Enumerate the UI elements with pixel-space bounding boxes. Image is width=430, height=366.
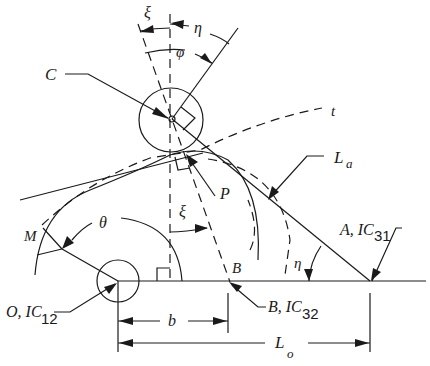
label-c: C xyxy=(45,65,57,84)
label-la-sub: a xyxy=(346,156,353,171)
label-xi-top: ξ xyxy=(144,4,151,21)
la-leader xyxy=(270,156,324,197)
label-o-ic-sub: 12 xyxy=(41,310,58,327)
xi-dashed-line xyxy=(138,24,230,282)
label-eta-bottom: η xyxy=(294,255,301,271)
theta-arc xyxy=(121,218,182,281)
dashed-arc xyxy=(208,159,290,275)
label-m: M xyxy=(23,228,38,244)
a-arrowhead xyxy=(371,268,381,281)
om-line xyxy=(62,249,118,281)
b-dim-arrow-right xyxy=(213,317,227,325)
right-angle-o xyxy=(157,268,170,281)
label-b-dim: b xyxy=(168,312,176,329)
label-b-point: B xyxy=(232,260,241,276)
cam-profile xyxy=(35,151,258,275)
lo-dim-arrow-left xyxy=(119,339,133,347)
label-phi: φ xyxy=(176,44,184,60)
xi-mid-arrowhead xyxy=(195,224,208,233)
theta-arrow-arc xyxy=(72,223,92,240)
link-line-upper xyxy=(172,28,238,119)
b-dim-arrow-left xyxy=(119,317,133,325)
label-a-ic-sub: 31 xyxy=(374,227,391,244)
right-angle-c xyxy=(181,107,195,130)
label-a-ic: A, IC xyxy=(339,221,374,238)
label-eta-top: η xyxy=(194,19,202,37)
label-b-ic: B, IC xyxy=(268,298,302,315)
label-b-ic-sub: 32 xyxy=(302,305,319,322)
p-leader xyxy=(190,160,215,196)
label-o-ic: O, IC xyxy=(6,303,42,320)
dashed-arc-lower xyxy=(248,200,255,250)
label-p: P xyxy=(219,185,230,202)
m-arrowhead xyxy=(62,236,74,249)
label-lo: L xyxy=(274,333,284,352)
eta-arc-right xyxy=(210,34,229,44)
eta-bottom-arc xyxy=(309,246,321,281)
lo-dim-arrow-right xyxy=(355,339,369,347)
eta-bottom-arrowhead xyxy=(304,269,313,281)
b-ic-arrowhead xyxy=(229,282,242,292)
phi-arrowhead xyxy=(200,53,212,64)
c-arrowhead xyxy=(152,107,169,119)
link-line-la xyxy=(172,119,370,281)
mechanism-diagram: ξ η φ C t L a P M θ ξ B η A, IC 31 O, IC… xyxy=(0,0,430,366)
label-la: L xyxy=(333,148,343,167)
label-lo-sub: o xyxy=(287,346,294,361)
xi-arrowhead xyxy=(140,25,154,33)
label-theta: θ xyxy=(99,214,107,231)
m-marker xyxy=(37,228,62,255)
c-leader xyxy=(65,74,168,118)
o-arrowhead xyxy=(104,283,117,294)
label-t: t xyxy=(331,103,336,119)
label-xi-mid: ξ xyxy=(179,203,186,220)
